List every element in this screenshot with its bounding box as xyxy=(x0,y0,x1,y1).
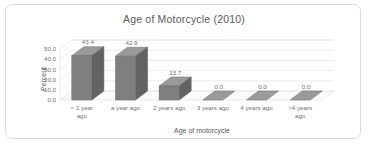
x-axis-category-label: < 1 year xyxy=(71,104,94,111)
x-axis-category-label: ago xyxy=(77,112,88,119)
bar-data-label: 43.4 xyxy=(82,38,95,45)
x-axis-title: Age of motorcycle xyxy=(174,127,230,135)
x-axis-category-label: 2 years ago xyxy=(153,104,186,111)
x-axis-category-labels: < 1 yearagoa year ago2 years ago3 years … xyxy=(71,104,313,119)
bar-data-label: 0.0 xyxy=(215,83,224,90)
y-axis-tick-label: 50.0 xyxy=(44,45,57,52)
y-axis-title: Percent xyxy=(40,67,47,91)
y-axis-tick-label: 40.0 xyxy=(44,55,57,62)
x-axis-category-label: a year ago xyxy=(111,104,141,111)
bar-data-label: 0.0 xyxy=(258,83,267,90)
bar-data-label: 42.9 xyxy=(125,39,138,46)
bar-data-label: 13.7 xyxy=(169,69,182,76)
y-axis-tick-label: 0.0 xyxy=(47,96,56,103)
chart-svg: 50.040.030.020.010.00.0 43.442.913.70.00… xyxy=(6,5,362,140)
bar-data-label: 0.0 xyxy=(302,83,311,90)
x-axis-category-label: 3 years ago xyxy=(197,104,230,111)
x-axis-category-label: >4 years xyxy=(288,104,312,111)
x-axis-category-label: 4 years ago xyxy=(240,104,273,111)
x-axis-category-label: ago xyxy=(295,112,306,119)
chart-plot-area: 50.040.030.020.010.00.0 43.442.913.70.00… xyxy=(6,5,362,140)
chart-card: Age of Motorcycle (2010) 50.040.030.020.… xyxy=(5,4,361,139)
